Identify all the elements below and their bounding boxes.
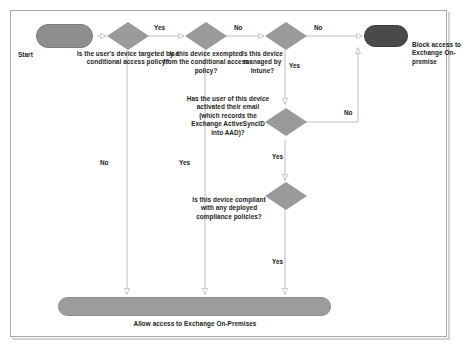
node-compliant-label: Is this device compliant with any deploy… xyxy=(187,196,271,221)
edge-label-intune-no: No xyxy=(314,24,323,32)
edge-label-targeted-yes: Yes xyxy=(154,24,165,32)
node-start-label: Start xyxy=(18,51,58,59)
node-intune-label: Is this device managed by Intune? xyxy=(231,50,294,75)
node-allow-access-label: Allow access to Exchange On-Premises xyxy=(95,320,295,328)
edge-label-intune-yes: Yes xyxy=(289,62,300,70)
node-block-access[interactable] xyxy=(364,25,408,47)
edge-label-exempted-yes: Yes xyxy=(179,159,190,167)
edge-label-activesync-no: No xyxy=(344,109,353,117)
node-activesync-label: Has the user of this device activated th… xyxy=(186,95,270,137)
edge-label-targeted-no: No xyxy=(100,159,109,167)
edge-label-exempted-no: No xyxy=(234,24,243,32)
flowchart-canvas: Start Is the user's device targeted by a… xyxy=(0,0,468,353)
node-allow-access[interactable] xyxy=(58,297,331,316)
edge-label-activesync-yes: Yes xyxy=(272,153,283,161)
frame-shadow-bottom xyxy=(12,338,449,340)
node-block-access-label: Block access to Exchange On-premise xyxy=(412,41,462,66)
node-start[interactable] xyxy=(36,24,93,48)
edge-label-compliant-yes: Yes xyxy=(272,258,283,266)
